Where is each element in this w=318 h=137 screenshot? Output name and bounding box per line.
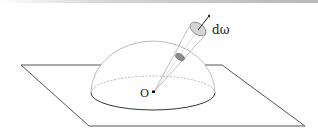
arrow-tip (208, 15, 210, 17)
solid-angle-label: dω (212, 23, 230, 37)
solid-angle-diagram: O dω (0, 0, 318, 137)
solid-angle-disc (187, 19, 208, 38)
origin-point (152, 91, 155, 94)
origin-label: O (140, 87, 149, 100)
hemisphere-base-front (91, 93, 215, 110)
